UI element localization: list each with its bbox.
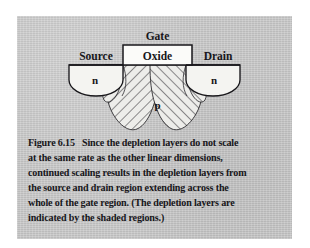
caption-line-5: whole of the gate region. (The depletion… [28, 196, 282, 211]
caption-line-2: at the same rate as the other linear dim… [28, 151, 282, 166]
gate-label: Gate [146, 30, 170, 42]
caption-line-1: Figure 6.15 Since the depletion layers d… [28, 136, 282, 151]
drain-label: Drain [204, 50, 233, 62]
n-region-left-label: n [92, 74, 98, 86]
caption-line-3: continued scaling results in the depleti… [28, 166, 282, 181]
p-substrate-label: p [154, 99, 160, 111]
caption-line-6: indicated by the shaded regions.) [28, 211, 282, 226]
source-label: Source [79, 50, 113, 62]
mosfet-diagram: Gate Oxide Source Drain n n p [17, 16, 292, 140]
n-region-right-label: n [211, 74, 217, 86]
figure-caption: Figure 6.15 Since the depletion layers d… [28, 136, 282, 225]
figure-panel: Gate Oxide Source Drain n n p Figure 6.1… [17, 16, 292, 239]
mosfet-cross-section-svg: Gate Oxide Source Drain n n p [17, 16, 292, 140]
figure-number: Figure 6.15 [28, 137, 75, 148]
caption-line-1-text: Since the depletion layers do not scale [82, 137, 238, 148]
caption-line-4: the source and drain region extending ac… [28, 181, 282, 196]
figure-page: Gate Oxide Source Drain n n p Figure 6.1… [0, 0, 310, 248]
oxide-label: Oxide [143, 50, 172, 62]
